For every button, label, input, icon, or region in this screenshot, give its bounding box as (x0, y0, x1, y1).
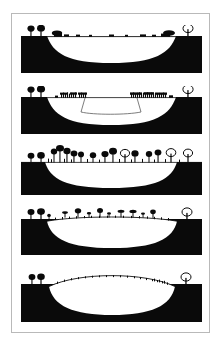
panel-transition-bog-stage (21, 205, 202, 255)
figure-root (0, 0, 223, 353)
tree (87, 212, 91, 218)
tree (78, 152, 84, 163)
tree (62, 211, 68, 217)
tree (56, 145, 64, 163)
right-upland-tree-1 (181, 273, 191, 284)
stage-5-cross-section (21, 266, 202, 322)
tree-outlined (166, 149, 176, 163)
right-upland-tree-1 (183, 86, 193, 98)
left-bank-shrub (47, 214, 51, 220)
left-reed-bed (55, 92, 87, 97)
figure-frame (11, 13, 210, 333)
left-upland-tree-2 (37, 25, 45, 36)
stage-3-cross-section (21, 145, 202, 195)
right-upland-tree-1 (182, 208, 192, 219)
left-upland-tree-1 (28, 209, 35, 219)
tree (28, 153, 35, 163)
carr-woodland-canopy (28, 145, 193, 163)
right-upland-tree-1 (183, 25, 193, 37)
left-upland-tree-2 (37, 86, 45, 97)
left-upland-tree-1 (27, 87, 34, 98)
tree (97, 208, 103, 217)
tree (131, 150, 138, 162)
tree (75, 208, 81, 217)
left-upland-tree-2 (37, 208, 45, 219)
left-upland-tree-1 (27, 26, 34, 37)
tree (141, 212, 145, 217)
panel-raised-bog-stage (21, 266, 202, 322)
left-upland-tree-1 (29, 274, 36, 284)
stage-4-cross-section (21, 205, 202, 255)
tree (129, 210, 136, 218)
panel-reed-swamp-stage (21, 86, 202, 134)
stage-1-cross-section (21, 25, 202, 73)
tree (109, 148, 117, 163)
tree (155, 150, 162, 163)
panel-fen-carr-woodland-stage (21, 145, 202, 195)
tree-outlined (120, 149, 129, 162)
tree (150, 209, 156, 218)
tree-outlined (183, 149, 192, 162)
tree (146, 151, 152, 162)
understorey-scrub (48, 159, 180, 163)
tree (90, 152, 96, 162)
panel-open-water-lake-stage (21, 25, 202, 73)
tree (37, 152, 45, 162)
tree (101, 151, 108, 163)
stage-2-cross-section (21, 86, 202, 134)
left-upland-tree-2 (37, 274, 45, 285)
right-reed-bed (130, 92, 173, 98)
